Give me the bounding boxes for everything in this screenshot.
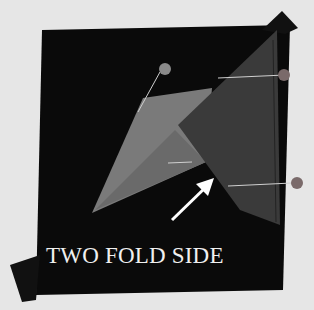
photo-caption: TWO FOLD SIDE <box>46 243 224 269</box>
pin-head <box>159 63 171 75</box>
pin-head <box>278 69 290 81</box>
pin-head <box>291 177 303 189</box>
